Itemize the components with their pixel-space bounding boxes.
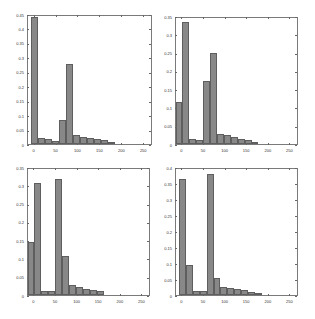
y-tick-mark: [175, 248, 177, 249]
x-tick-mark: [99, 15, 100, 17]
y-tick-mark: [27, 259, 29, 260]
x-tick-mark: [246, 168, 247, 170]
x-tick-mark: [289, 143, 290, 145]
y-tick-mark: [175, 280, 177, 281]
y-tick-mark: [295, 216, 297, 217]
x-tick-label: 0: [25, 299, 41, 304]
x-tick-label: 50: [195, 148, 211, 153]
y-tick-label: 0.2: [154, 230, 172, 235]
x-tick-mark: [289, 294, 290, 296]
x-tick-mark: [143, 15, 144, 17]
y-tick-mark: [149, 15, 151, 16]
y-tick-mark: [27, 131, 29, 132]
y-tick-mark: [147, 241, 149, 242]
x-tick-label: 150: [238, 148, 254, 153]
x-tick-mark: [141, 294, 142, 296]
histogram-bar: [31, 17, 38, 144]
x-tick-label: 250: [135, 148, 151, 153]
histogram-bar: [34, 183, 41, 295]
y-tick-label: 0.1: [6, 114, 24, 119]
y-tick-mark: [27, 223, 29, 224]
y-tick-mark: [149, 131, 151, 132]
y-tick-mark: [175, 90, 177, 91]
x-tick-mark: [181, 17, 182, 19]
y-tick-mark: [175, 232, 177, 233]
y-tick-label: 0.15: [6, 239, 24, 244]
histogram-bar: [108, 142, 115, 144]
y-tick-label: 0.3: [6, 184, 24, 189]
y-tick-label: 0.25: [6, 202, 24, 207]
y-tick-mark: [295, 108, 297, 109]
histogram-bar: [217, 134, 224, 144]
y-tick-mark: [295, 184, 297, 185]
x-tick-label: 200: [260, 148, 276, 153]
x-tick-label: 250: [281, 148, 297, 153]
y-tick-label: 0.15: [154, 88, 172, 93]
y-tick-mark: [27, 102, 29, 103]
histogram-bar: [101, 140, 108, 144]
x-tick-mark: [33, 294, 34, 296]
histogram-bar: [189, 139, 196, 144]
y-tick-label: 0.35: [154, 15, 172, 20]
y-tick-mark: [295, 127, 297, 128]
y-tick-mark: [27, 15, 29, 16]
y-tick-mark: [295, 168, 297, 169]
y-tick-label: 0.4: [6, 27, 24, 32]
histogram-bar: [182, 22, 189, 144]
y-tick-mark: [175, 108, 177, 109]
y-tick-label: 0.1: [154, 106, 172, 111]
y-tick-mark: [147, 278, 149, 279]
y-tick-mark: [27, 29, 29, 30]
y-tick-label: 0.05: [154, 124, 172, 129]
x-tick-label: 100: [69, 148, 85, 153]
histogram-bar: [28, 242, 35, 295]
x-tick-mark: [268, 143, 269, 145]
y-tick-label: 0.45: [6, 13, 24, 18]
x-tick-mark: [33, 168, 34, 170]
y-tick-label: 0.2: [6, 220, 24, 225]
x-tick-label: 0: [26, 148, 42, 153]
x-tick-mark: [203, 294, 204, 296]
x-tick-mark: [246, 17, 247, 19]
plot-area: [175, 17, 298, 145]
histogram-bar: [234, 289, 241, 295]
x-tick-mark: [181, 168, 182, 170]
histogram-bar: [41, 291, 48, 295]
y-tick-mark: [295, 72, 297, 73]
histogram-bar: [62, 256, 69, 295]
y-tick-mark: [175, 72, 177, 73]
x-tick-mark: [268, 168, 269, 170]
x-tick-mark: [246, 143, 247, 145]
y-tick-mark: [147, 223, 149, 224]
histogram-bar: [80, 137, 87, 144]
x-tick-label: 100: [69, 299, 85, 304]
x-tick-mark: [77, 143, 78, 145]
x-tick-mark: [120, 294, 121, 296]
x-tick-mark: [56, 143, 57, 145]
x-tick-mark: [268, 17, 269, 19]
x-tick-label: 50: [195, 299, 211, 304]
y-tick-label: 0.25: [154, 214, 172, 219]
x-tick-mark: [34, 143, 35, 145]
y-tick-mark: [27, 168, 29, 169]
x-tick-label: 50: [47, 299, 63, 304]
x-tick-mark: [181, 143, 182, 145]
plot-area: [175, 168, 298, 296]
y-tick-mark: [27, 73, 29, 74]
histogram-bar: [186, 265, 193, 295]
y-tick-mark: [295, 145, 297, 146]
histogram-bar: [90, 290, 97, 295]
x-tick-mark: [56, 15, 57, 17]
plot-area: [27, 15, 152, 145]
histogram-bar: [193, 291, 200, 295]
y-tick-mark: [175, 264, 177, 265]
y-tick-mark: [27, 278, 29, 279]
y-tick-mark: [147, 205, 149, 206]
y-tick-mark: [149, 145, 151, 146]
x-tick-mark: [203, 143, 204, 145]
y-tick-mark: [147, 259, 149, 260]
plot-area: [27, 168, 150, 296]
y-tick-label: 0.25: [154, 51, 172, 56]
histogram-bar: [203, 81, 210, 144]
y-tick-mark: [175, 17, 177, 18]
